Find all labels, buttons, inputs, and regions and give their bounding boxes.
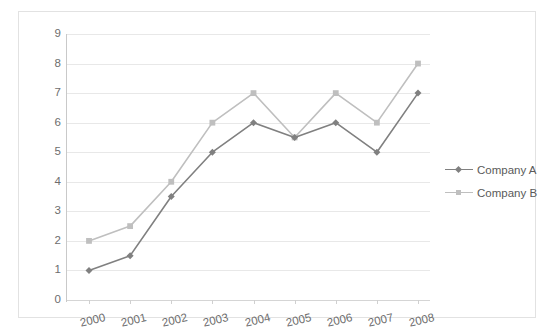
x-axis-tick-label: 2002	[147, 311, 189, 332]
x-axis-tick	[130, 300, 131, 304]
x-axis-tick-label: 2005	[270, 311, 312, 332]
x-axis-tick	[377, 300, 378, 304]
x-axis-tick	[254, 300, 255, 304]
legend-item[interactable]: Company B	[445, 181, 549, 204]
x-axis-tick	[171, 300, 172, 304]
x-axis-tick-label: 2004	[229, 311, 271, 332]
legend-key-diamond-icon	[455, 166, 462, 173]
x-axis-tick-label: 2003	[188, 311, 230, 332]
x-axis-tick	[89, 300, 90, 304]
legend-key-icon	[445, 164, 473, 176]
x-axis-tick	[418, 300, 419, 304]
legend-key-icon	[445, 187, 473, 199]
legend-item[interactable]: Company A	[445, 158, 549, 181]
x-axis-tick	[295, 300, 296, 304]
x-axis-tick-label: 2006	[311, 311, 353, 332]
x-axis-tick-label: 2000	[65, 311, 107, 332]
x-axis-tick-label: 2007	[353, 311, 395, 332]
legend-item-label: Company A	[477, 164, 536, 176]
x-axis-tick-label: 2001	[106, 311, 148, 332]
x-axis-tick	[336, 300, 337, 304]
x-axis-tick	[212, 300, 213, 304]
legend-item-label: Company B	[477, 187, 537, 199]
chart-legend: Company ACompany B	[445, 158, 549, 204]
legend-key-square-icon	[456, 190, 461, 195]
x-axis-tick-label: 2008	[394, 311, 436, 332]
chart-frame: 0123456789 20002001200220032004200520062…	[18, 11, 536, 318]
